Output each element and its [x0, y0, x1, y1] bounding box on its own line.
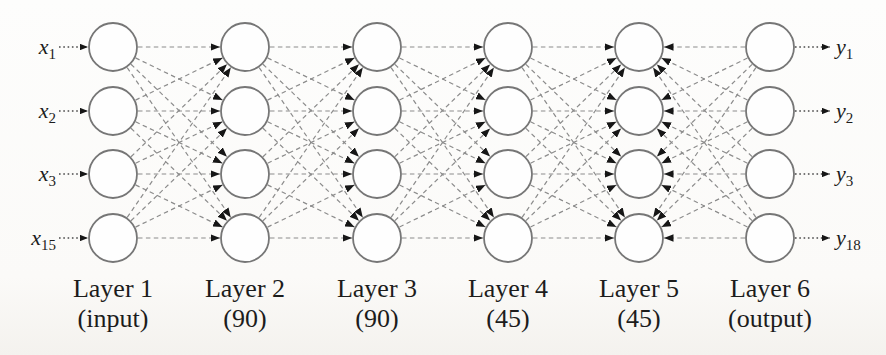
network-diagram: x1x2x3x15y1y2y3y18Layer 1(input)Layer 2(…	[0, 0, 886, 355]
layer-6-subcaption: (output)	[728, 304, 812, 333]
input-label: x1	[38, 34, 56, 62]
layer-6-node-3	[746, 150, 794, 198]
layer-1-node-3	[89, 150, 137, 198]
layer-3-caption: Layer 3	[337, 274, 417, 303]
layer-1-node-2	[89, 87, 137, 135]
layer-2-node-3	[221, 150, 269, 198]
input-label: x2	[38, 98, 56, 126]
output-label: y3	[834, 161, 853, 189]
figure-canvas: x1x2x3x15y1y2y3y18Layer 1(input)Layer 2(…	[0, 0, 886, 355]
output-label: y18	[834, 225, 861, 253]
layer-3-node-3	[353, 150, 401, 198]
layer-4-caption: Layer 4	[468, 274, 548, 303]
layer-2-node-2	[221, 87, 269, 135]
layer-4-node-1	[484, 23, 532, 71]
layer-3-subcaption: (90)	[355, 304, 398, 333]
layer-2-caption: Layer 2	[205, 274, 285, 303]
layer-3-node-2	[353, 87, 401, 135]
layer-5-subcaption: (45)	[617, 304, 660, 333]
layer-5-node-3	[615, 150, 663, 198]
layer-3-node-1	[353, 23, 401, 71]
input-label: x15	[30, 225, 56, 253]
output-label: y1	[834, 34, 853, 62]
layer-4-subcaption: (45)	[486, 304, 529, 333]
layer-1-caption: Layer 1	[73, 274, 153, 303]
layer-3-node-4	[353, 214, 401, 262]
layer-1-node-4	[89, 214, 137, 262]
layer-5-node-4	[615, 214, 663, 262]
layer-6-caption: Layer 6	[730, 274, 810, 303]
layer-5-caption: Layer 5	[599, 274, 679, 303]
layer-5-node-2	[615, 87, 663, 135]
layer-1-subcaption: (input)	[78, 304, 149, 333]
layer-6-node-2	[746, 87, 794, 135]
layer-4-node-3	[484, 150, 532, 198]
layer-2-node-4	[221, 214, 269, 262]
layer-4-node-2	[484, 87, 532, 135]
layer-4-node-4	[484, 214, 532, 262]
layer-5-node-1	[615, 23, 663, 71]
layer-2-node-1	[221, 23, 269, 71]
layer-6-node-4	[746, 214, 794, 262]
layer-6-node-1	[746, 23, 794, 71]
output-label: y2	[834, 98, 853, 126]
input-label: x3	[38, 161, 56, 189]
layer-1-node-1	[89, 23, 137, 71]
layer-2-subcaption: (90)	[223, 304, 266, 333]
